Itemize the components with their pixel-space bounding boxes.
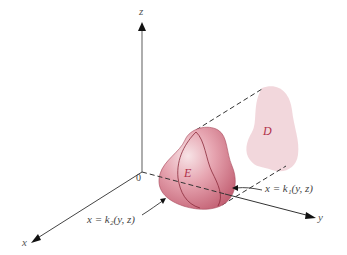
k2-arrowhead-icon [160, 198, 166, 204]
origin-label: 0 [136, 172, 141, 183]
projection-line-top [196, 89, 262, 130]
z-axis-label: z [139, 5, 143, 17]
y-axis [225, 194, 310, 216]
projection-d-label: D [263, 124, 272, 139]
front-surface-equation: x = k₁(y, z) [265, 182, 313, 194]
solid-e-label: E [184, 166, 191, 181]
solid-region-e [159, 127, 235, 209]
diagram-canvas [0, 0, 347, 255]
projection-region-d [246, 86, 298, 171]
x-axis-arrow-icon [31, 234, 41, 243]
y-axis-label: y [318, 211, 323, 223]
x-axis [36, 172, 142, 239]
z-axis-arrow-icon [138, 22, 146, 31]
k2-pointer-arrow [142, 200, 164, 215]
x-axis-label: x [22, 236, 27, 248]
k1-pointer-arrow [236, 188, 262, 190]
y-axis-arrow-icon [305, 212, 316, 219]
back-surface-equation: x = k₂(y, z) [87, 213, 135, 225]
